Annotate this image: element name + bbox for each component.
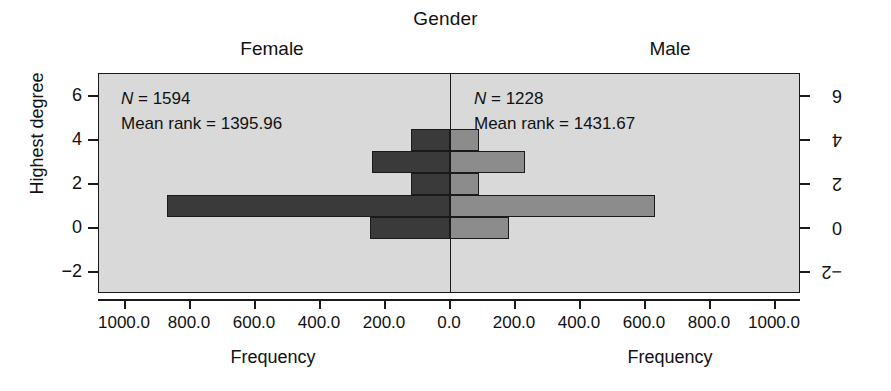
y-tick-mark-left-4	[88, 271, 98, 273]
y-tick-label-right-3: 0	[812, 217, 842, 238]
y-tick-mark-right-3	[800, 227, 810, 229]
bar-female-degree-0	[370, 217, 450, 239]
y-tick-label-right-2: 2	[812, 173, 842, 194]
x-tick-left-1-mark	[189, 299, 191, 309]
x-tick-right-4-mark	[709, 299, 711, 309]
y-tick-mark-left-2	[88, 183, 98, 185]
bar-male-degree-1	[450, 195, 655, 217]
bar-female-degree-4	[411, 129, 450, 151]
panel-label-female: Female	[172, 38, 372, 60]
y-tick-mark-right-4	[800, 271, 810, 273]
center-divider	[450, 74, 451, 293]
x-tick-left-4-mark	[384, 299, 386, 309]
panel-label-male: Male	[570, 38, 770, 60]
y-tick-label-left-2: 2	[48, 173, 82, 194]
bar-female-degree-2	[411, 173, 450, 195]
x-tick-left-0-mark	[124, 299, 126, 309]
bar-male-degree-2	[450, 173, 479, 195]
x-tick-right-5-mark	[774, 299, 776, 309]
y-tick-label-left-1: 4	[48, 129, 82, 150]
n-symbol-female: N	[121, 89, 133, 108]
y-tick-mark-left-0	[88, 95, 98, 97]
annotation-male: N = 1228 Mean rank = 1431.67	[474, 86, 635, 136]
y-tick-label-left-3: 0	[48, 217, 82, 238]
x-tick-left-5-mark	[449, 299, 451, 309]
x-axis-title-right: Frequency	[560, 347, 780, 368]
y-tick-label-right-4: −2	[812, 261, 842, 282]
x-tick-right-5-label: 1000.0	[734, 313, 814, 333]
x-tick-right-3-mark	[644, 299, 646, 309]
x-tick-left-3-mark	[319, 299, 321, 309]
x-axis-title-left: Frequency	[163, 347, 383, 368]
y-tick-label-left-0: 6	[48, 85, 82, 106]
plot-area: N = 1594 Mean rank = 1395.96 N = 1228 Me…	[98, 73, 800, 293]
annotation-male-n: N = 1228	[474, 86, 635, 111]
x-tick-left-2-mark	[254, 299, 256, 309]
y-tick-mark-right-2	[800, 183, 810, 185]
n-value-female: = 1594	[133, 89, 190, 108]
y-tick-label-right-1: 4	[812, 129, 842, 150]
x-tick-right-2-mark	[579, 299, 581, 309]
annotation-female: N = 1594 Mean rank = 1395.96	[121, 86, 282, 136]
bar-male-degree-3	[450, 151, 525, 173]
y-tick-mark-right-0	[800, 95, 810, 97]
bar-male-degree-0	[450, 217, 509, 239]
y-axis-title-left: Highest degree	[27, 44, 48, 224]
bar-female-degree-1	[167, 195, 450, 217]
chart-title: Gender	[0, 8, 891, 30]
y-tick-mark-right-1	[800, 139, 810, 141]
y-tick-mark-left-1	[88, 139, 98, 141]
n-symbol-male: N	[474, 89, 486, 108]
y-tick-label-left-4: −2	[48, 261, 82, 282]
annotation-female-n: N = 1594	[121, 86, 282, 111]
y-tick-mark-left-3	[88, 227, 98, 229]
chart-container: Gender Female Male N = 1594 Mean rank = …	[0, 0, 891, 391]
annotation-male-mean-rank: Mean rank = 1431.67	[474, 111, 635, 136]
y-tick-label-right-0: 6	[812, 85, 842, 106]
bar-female-degree-3	[372, 151, 450, 173]
n-value-male: = 1228	[486, 89, 543, 108]
annotation-female-mean-rank: Mean rank = 1395.96	[121, 111, 282, 136]
x-tick-right-1-mark	[514, 299, 516, 309]
